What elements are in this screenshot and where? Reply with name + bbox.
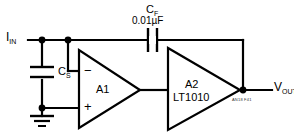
cf-value-label: 0.01µF [132, 15, 163, 26]
junction-dot-ground [39, 105, 46, 112]
output-label: VOUT [274, 80, 294, 95]
a1-label: A1 [96, 83, 109, 95]
schematic-canvas: IIN CF 0.01µF CS − + A1 A2 LT1010 VOUT A… [0, 0, 294, 136]
a1-plus-terminal-label: + [84, 99, 92, 114]
opamp-a1-body [79, 50, 140, 128]
cs-ref-label: CS [58, 65, 71, 79]
a2-label: A2 [185, 78, 198, 90]
a1-minus-terminal-label: − [84, 63, 92, 78]
cf-gap-mask [149, 36, 156, 44]
figure-id-label: AN18 F41 [232, 97, 252, 102]
opamp-a2-body [168, 48, 240, 130]
capacitor-cs [30, 67, 54, 77]
junction-dot-output [240, 87, 247, 94]
ground-symbol [30, 116, 54, 126]
junction-dot-feedback [65, 37, 72, 44]
junction-dot-input [39, 37, 46, 44]
input-label: IIN [6, 30, 16, 45]
a2-part-label: LT1010 [173, 91, 210, 103]
